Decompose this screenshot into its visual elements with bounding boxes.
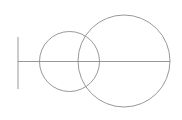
line-drawing-svg (0, 0, 182, 120)
canvas-background (0, 0, 182, 120)
figure-canvas (0, 0, 182, 120)
